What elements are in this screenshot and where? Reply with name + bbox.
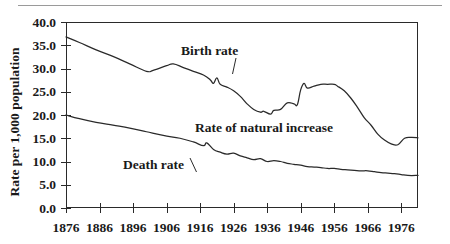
plot-lines: [66, 22, 418, 208]
x-axis-tick-label: 1896: [120, 221, 147, 235]
y-axis-tick-label: 0.0: [0, 202, 56, 216]
x-axis-tick-label: 1906: [153, 221, 180, 235]
x-axis-tick-label: 1916: [187, 221, 214, 235]
annotation-death-rate: Death rate: [123, 158, 184, 172]
y-axis-tick-label: 35.0: [0, 39, 56, 53]
y-axis-tick-label: 40.0: [0, 16, 56, 30]
x-axis-tick-label: 1956: [321, 221, 348, 235]
chart-figure: Rate per 1,000 population 0.05.010.015.0…: [0, 0, 450, 244]
y-axis-tick-label: 25.0: [0, 85, 56, 99]
x-axis-tick-label: 1936: [254, 221, 281, 235]
annotation-rate-of-natural-increase: Rate of natural increase: [195, 121, 333, 135]
y-axis-tick-label: 5.0: [0, 178, 56, 192]
annotation-birth-rate: Birth rate: [181, 44, 238, 58]
x-axis-tick-label: 1976: [388, 221, 415, 235]
x-axis-tick-label: 1886: [86, 221, 113, 235]
x-axis-tick-label: 1876: [53, 221, 80, 235]
x-axis-tick-label: 1946: [287, 221, 314, 235]
y-axis-tick-label: 10.0: [0, 155, 56, 169]
x-axis-tick-label: 1966: [354, 221, 381, 235]
y-axis-tick-label: 30.0: [0, 62, 56, 76]
x-axis-tick-label: 1926: [220, 221, 247, 235]
y-axis-tick-label: 15.0: [0, 132, 56, 146]
top-rule-divider: [18, 5, 442, 6]
y-axis-tick-label: 20.0: [0, 109, 56, 123]
